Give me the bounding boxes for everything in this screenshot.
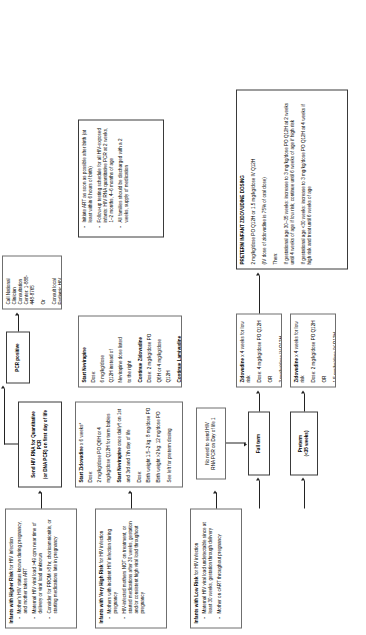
call-center-line-5: 448-8765 (30, 260, 36, 304)
preterm-dosing-item-2: If gestational age <30 weeks: increase t… (301, 94, 313, 264)
full-term-label: Full term (256, 433, 262, 452)
nvp-dose-line-2: Birth weight >2 kg: 12 mg/dose PO (156, 406, 162, 482)
connector (4, 388, 5, 444)
nevirapine-box: Start Nevirapine Dose: 6 mg/kg/dose Q12H… (78, 315, 182, 387)
arrow-head (244, 442, 247, 446)
nevirapine-dose-2: Q12H instead of (109, 320, 115, 382)
zdv-preterm-line-2: OR (322, 318, 328, 382)
connector (131, 492, 132, 508)
no-pcr-line-2: RNA PCR on Day of life 1 (211, 417, 217, 469)
list-item: Maternal HIV viral load undetectable sin… (202, 513, 214, 617)
arrow-head (256, 390, 260, 393)
risk-box-low: Infants with Low Risk for HIV infection … (190, 508, 242, 628)
nevirapine-dose-3: Nevirapine dose listed (118, 320, 124, 382)
connector (216, 492, 217, 508)
send-pcr-box: Send HIV RNA for Quantitative PCR (or DN… (18, 401, 62, 487)
arrow-head (38, 490, 42, 493)
risk-box-low-bullets: Maternal HIV viral load undetectable sin… (202, 513, 223, 623)
arrow-head (1, 385, 5, 388)
zdv-fullterm-title: Zidovudine x 4 weeks for low risk (240, 318, 252, 382)
start-zdv-title: Start Zidovudine x 6 weeks* (79, 406, 85, 482)
list-item: Follow-up testing schedule for all HIV-e… (97, 124, 115, 226)
zdv-fullterm-line-2: OR (268, 318, 274, 382)
risk-box-very-high-header: Infants with Very High Risk for HIV infe… (99, 513, 105, 623)
connector (18, 314, 19, 331)
risk-box-higher: Infants with Higher Risk for HIV infecti… (5, 508, 77, 628)
consult-line-2: Pediatric HIV (58, 260, 62, 304)
list-item: Mothers with incident HIV infection duri… (107, 513, 119, 617)
send-pcr-line-2: (or DNA PCR) on first day of life (43, 406, 49, 482)
arrow-head (128, 490, 132, 493)
general-instructions-box: Initiate ART as soon as possible after b… (78, 119, 164, 237)
list-item: Mother on cART throughout pregnancy (217, 513, 223, 617)
no-pcr-box: No need to send HIV RNA PCR on Day of li… (196, 407, 226, 479)
nevirapine-dose-1: 6 mg/kg/dose (100, 320, 106, 382)
arrow-head (256, 272, 260, 275)
connector (259, 480, 260, 508)
pcr-positive-box: PCR positive (6, 331, 30, 383)
connector (259, 275, 260, 313)
start-nvp-line-2: and 3rd and 7th day of life (126, 406, 132, 482)
nvp-preterm-note: See left for preterm dosing (167, 406, 173, 482)
zdv-dose-label: Dose: (88, 406, 94, 482)
list-item: Initiate ART as soon as possible after b… (82, 124, 94, 226)
zdv-dose-line-2: mg/kg/dose Q12H for term babies (106, 406, 112, 482)
zdv-fullterm-line-1: Dose: 4 mg/kg/dose PO Q12H (257, 318, 263, 382)
nvp-dose-line-1: Birth weight 1.5–2 kg: 8 mg/dose PO (146, 406, 152, 482)
preterm-dosing-line-1: 2 mg/kg/dose PO Q12H or 1.5 mg/kg/dose I… (251, 94, 257, 264)
call-center-or: Or (41, 260, 47, 304)
zdv-fullterm-box: Zidovudine x 4 weeks for low risk Dose: … (236, 313, 282, 387)
very-high-regimen-box: Start Zidovudine x 6 weeks* Dose: 2 mg/k… (75, 401, 183, 487)
zdv-dose-line-1: 2 mg/kg/dose PO Q6H or 4 (97, 406, 103, 482)
connector (304, 393, 305, 411)
zdv-preterm-line-1: Dose: 2 mg/kg/dose PO Q12H (311, 318, 317, 382)
connector (304, 480, 305, 508)
risk-box-very-high: Infants with Very High Risk for HIV infe… (95, 508, 167, 628)
preterm-dosing-item-1: If gestational age 30–35 weeks: increase… (284, 94, 296, 264)
connector (259, 393, 260, 411)
arrow-head (256, 477, 260, 480)
zdv-preterm-title: Zidovudine x 4 weeks for low risk (294, 318, 306, 382)
connector (41, 492, 42, 508)
arrow-head (301, 390, 305, 393)
nevirapine-dose-label: Dose: (91, 320, 97, 382)
preterm-dosing-box: PRETERM INFANT ZIDOVUDINE DOSING 2 mg/kg… (236, 89, 348, 269)
connector (226, 442, 246, 443)
continue-lamivudine-title: Continue Lamivudine (177, 320, 182, 382)
list-item: Consider for PROM >8 hr, chorioamnioniti… (47, 513, 59, 617)
pcr-positive-label: PCR positive (15, 343, 21, 371)
diagram-frame: Infants with Higher Risk for HIV infecti… (0, 0, 366, 635)
continue-zidovudine-title: Continue Zidovudine (138, 320, 144, 382)
flowchart-canvas: Infants with Higher Risk for HIV infecti… (0, 0, 366, 635)
continue-zdv-3: Q12H (166, 320, 172, 382)
full-term-box: Full term (248, 411, 270, 475)
start-nvp-title: Start Nevirapine once daily† on 1st (117, 406, 123, 482)
risk-box-very-high-bullets: Mothers with incident HIV infection duri… (107, 513, 146, 623)
risk-box-low-header: Infants with Low Risk for HIV infection (194, 513, 200, 623)
list-item: HIV-infected mothers NOT on treatment, o… (122, 513, 146, 617)
connector (4, 443, 18, 444)
preterm-label-2: (<35 weeks) (304, 430, 310, 456)
preterm-dosing-line-2: (IV dose of zidovudine is 75% of oral do… (262, 94, 268, 264)
list-item: Maternal HIV viral load >49 cpm near tim… (32, 513, 44, 617)
list-item: Mother's HIV status known during pregnan… (17, 513, 29, 617)
list-item: All families should be discharged with a… (118, 124, 130, 226)
zdv-fullterm-line-3: 3 mg/kg/dose IV Q12H (279, 318, 282, 382)
preterm-dosing-then: Then: (273, 94, 279, 264)
risk-box-higher-bullets: Mother's HIV status known during pregnan… (17, 513, 59, 623)
arrow-head (213, 490, 217, 493)
continue-zdv-1: Dose: 2 mg/kg/dose PO (147, 320, 153, 382)
send-pcr-line-1: Send HIV RNA for Quantitative PCR (31, 406, 43, 482)
preterm-box: Preterm (<35 weeks) (290, 411, 318, 475)
general-bullets: Initiate ART as soon as possible after b… (82, 124, 130, 232)
zdv-preterm-box: Zidovudine x 4 weeks for low risk Dose: … (290, 313, 336, 387)
nevirapine-dose-4: to the right (127, 320, 133, 382)
nevirapine-title: Start Nevirapine (82, 320, 88, 382)
arrow-head (15, 312, 19, 315)
call-center-box: Call National Clinician Consultation Cen… (2, 255, 62, 309)
zdv-preterm-line-3: 1.5 mg/kg/dose IV Q12H (333, 318, 336, 382)
nvp-dose-label: Dose: (137, 406, 143, 482)
arrow-head (301, 477, 305, 480)
preterm-dosing-title: PRETERM INFANT ZIDOVUDINE DOSING (240, 94, 246, 264)
risk-box-higher-header: Infants with Higher Risk for HIV infecti… (9, 513, 15, 623)
